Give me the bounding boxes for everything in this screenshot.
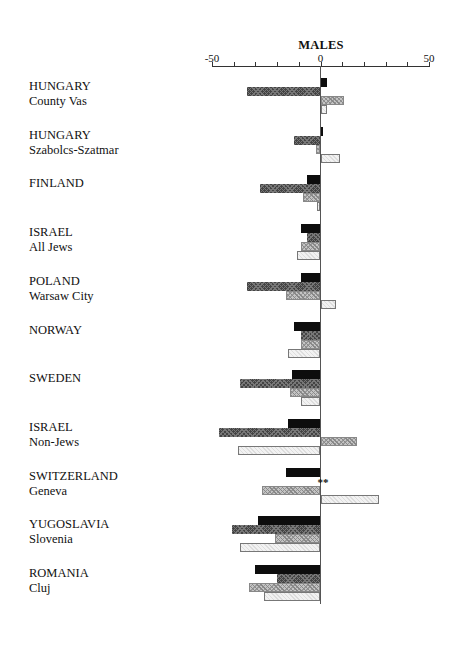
- bar: [301, 331, 321, 340]
- x-tick: [429, 62, 430, 67]
- x-tick: [277, 62, 278, 67]
- category-label: HUNGARYSzabolcs-Szatmar: [29, 128, 119, 158]
- bar: [264, 592, 320, 601]
- bar: [294, 322, 320, 331]
- bar: [238, 446, 320, 455]
- country-name: HUNGARY: [29, 79, 91, 94]
- x-tick: [321, 62, 322, 67]
- bar: [321, 105, 328, 114]
- region-name: Slovenia: [29, 532, 109, 547]
- bar: [277, 574, 320, 583]
- category-label: FINLAND: [29, 176, 84, 191]
- bar: [249, 583, 321, 592]
- bar: [240, 543, 320, 552]
- x-tick: [299, 62, 300, 67]
- bar: [321, 96, 345, 105]
- bar: [321, 495, 380, 504]
- region-name: Cluj: [29, 581, 89, 596]
- category-label: YUGOSLAVIASlovenia: [29, 517, 109, 547]
- country-name: NORWAY: [29, 323, 82, 338]
- x-tick: [386, 62, 387, 67]
- bar: [247, 282, 321, 291]
- bar: [290, 388, 320, 397]
- bar: [307, 175, 320, 184]
- chart-title: MALES: [271, 38, 371, 53]
- category-label: ISRAELNon-Jews: [29, 420, 79, 450]
- bar: [294, 136, 320, 145]
- region-name: Non-Jews: [29, 435, 79, 450]
- bar: [321, 154, 341, 163]
- bar: [240, 379, 320, 388]
- category-label: ISRAELAll Jews: [29, 225, 73, 255]
- bar: [255, 565, 320, 574]
- bar: [303, 193, 320, 202]
- country-name: POLAND: [29, 274, 94, 289]
- bar: [301, 273, 321, 282]
- country-name: SWEDEN: [29, 371, 81, 386]
- bar: [301, 340, 321, 349]
- bar: [292, 370, 320, 379]
- bar: [286, 291, 321, 300]
- bar: [288, 419, 321, 428]
- category-label: SWITZERLANDGeneva: [29, 469, 118, 499]
- x-tick: [342, 62, 343, 67]
- bar: [297, 251, 321, 260]
- x-tick: [255, 62, 256, 67]
- region-name: Szabolcs-Szatmar: [29, 143, 119, 158]
- bar: [321, 78, 328, 87]
- country-name: FINLAND: [29, 176, 84, 191]
- region-name: Warsaw City: [29, 289, 94, 304]
- bar: [301, 224, 321, 233]
- bar: [321, 127, 323, 136]
- bar: [321, 437, 358, 446]
- bar: [307, 233, 320, 242]
- region-name: All Jews: [29, 240, 73, 255]
- category-label: POLANDWarsaw City: [29, 274, 94, 304]
- region-name: County Vas: [29, 94, 91, 109]
- category-label: NORWAY: [29, 323, 82, 338]
- category-label: SWEDEN: [29, 371, 81, 386]
- category-label: ROMANIACluj: [29, 566, 89, 596]
- country-name: ROMANIA: [29, 566, 89, 581]
- country-name: ISRAEL: [29, 420, 79, 435]
- bar: [232, 525, 321, 534]
- x-tick: [212, 62, 213, 67]
- x-tick: [364, 62, 365, 67]
- country-name: HUNGARY: [29, 128, 119, 143]
- bar: [219, 428, 321, 437]
- bar: [275, 534, 321, 543]
- region-name: Geneva: [29, 484, 118, 499]
- category-label: HUNGARYCounty Vas: [29, 79, 91, 109]
- bar: [260, 184, 321, 193]
- bar: [286, 468, 321, 477]
- bar: [262, 486, 321, 495]
- bar: [247, 87, 321, 96]
- x-tick: [234, 62, 235, 67]
- bar: [316, 145, 320, 154]
- country-name: YUGOSLAVIA: [29, 517, 109, 532]
- bar: [321, 300, 336, 309]
- bar: [288, 349, 321, 358]
- bar: [258, 516, 321, 525]
- bar: [301, 397, 321, 406]
- bar: [317, 202, 320, 211]
- bar: [301, 242, 321, 251]
- country-name: ISRAEL: [29, 225, 73, 240]
- x-tick: [407, 62, 408, 67]
- country-name: SWITZERLAND: [29, 469, 118, 484]
